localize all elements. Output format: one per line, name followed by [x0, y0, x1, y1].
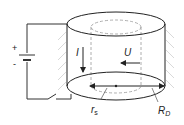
- inner-cylinder-dashed: [91, 20, 141, 93]
- current-label: I: [76, 47, 79, 58]
- inner-radius-label: rs: [91, 104, 98, 116]
- rs-leader: [101, 88, 107, 99]
- circuit-wire: [27, 24, 71, 99]
- battery-plus-label: +: [12, 43, 17, 53]
- outer-radius-label: RD: [158, 105, 170, 117]
- cylinder-circuit-diagram: + - I U rs RD: [0, 0, 184, 125]
- battery-minus-label: -: [13, 59, 16, 69]
- wall-hatch-right: [166, 30, 174, 88]
- center-point: [115, 85, 117, 87]
- wall-hatch-left: [58, 32, 66, 90]
- switch-lever: [48, 94, 56, 99]
- battery-icon: [19, 55, 35, 60]
- voltage-label: U: [124, 47, 132, 58]
